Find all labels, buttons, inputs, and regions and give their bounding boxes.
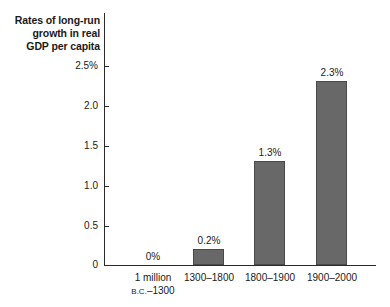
y-tick-label-2-0: 2.0	[38, 101, 98, 111]
x-label-0-era: B.C.	[131, 287, 147, 296]
y-axis-line	[104, 13, 105, 266]
y-tick-label-1-0: 1.0	[38, 181, 98, 191]
x-label-0-line-2: B.C.–1300	[122, 284, 184, 298]
x-label-0-range: –1300	[147, 285, 175, 296]
y-tick-label-1-5: 1.5	[38, 141, 98, 151]
x-label-0: 1 million B.C.–1300	[122, 271, 184, 298]
x-axis-line	[104, 265, 376, 266]
y-tick-mark-1-0	[104, 186, 109, 187]
bar-value-0: 0%	[122, 251, 184, 262]
y-axis-tick-labels: 0 0.5 1.0 1.5 2.0 2.5%	[38, 13, 98, 266]
bar-chart-figure: Rates of long-run growth in real GDP per…	[0, 0, 390, 307]
x-label-2: 1800–1900	[239, 271, 301, 284]
bar-3	[316, 81, 347, 265]
bar-value-2: 1.3%	[239, 147, 301, 158]
x-label-3: 1900–2000	[301, 271, 363, 284]
x-label-1: 1300–1800	[178, 271, 240, 284]
y-tick-mark-0	[104, 265, 109, 266]
y-tick-mark-1-5	[104, 146, 109, 147]
y-tick-label-0: 0	[38, 260, 98, 270]
x-label-0-line-1: 1 million	[135, 272, 172, 283]
y-tick-mark-2-0	[104, 106, 109, 107]
bar-value-3: 2.3%	[301, 67, 363, 78]
y-tick-mark-2-5	[104, 66, 109, 67]
bar-1	[193, 249, 224, 265]
y-tick-mark-0-5	[104, 226, 109, 227]
bar-2	[254, 161, 285, 265]
plot-area: 0 0.5 1.0 1.5 2.0 2.5% 0% 0.2% 1.3% 2.3%…	[104, 13, 376, 266]
y-tick-label-2-5: 2.5%	[38, 61, 98, 71]
y-tick-label-0-5: 0.5	[38, 221, 98, 231]
bar-value-1: 0.2%	[178, 235, 240, 246]
